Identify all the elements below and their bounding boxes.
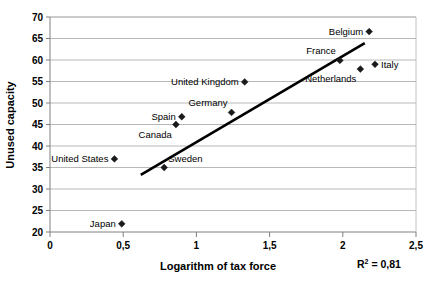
- x-tick-label: 2: [340, 240, 346, 251]
- y-tick-label: 45: [32, 119, 44, 130]
- data-point-label: Japan: [90, 218, 116, 229]
- y-tick-label: 55: [32, 76, 44, 87]
- data-point-marker: [161, 164, 168, 171]
- y-tick-label: 35: [32, 162, 44, 173]
- chart-canvas: 2025303540455055606570 00,511,522,5 Unit…: [0, 0, 441, 286]
- data-point-label: Canada: [139, 129, 173, 140]
- x-tick-label: 2,5: [409, 240, 423, 251]
- data-point-marker: [111, 156, 118, 163]
- data-point-label: Germany: [188, 97, 227, 108]
- data-point-label: United Kingdom: [171, 76, 239, 87]
- x-tick-label: 0,5: [116, 240, 130, 251]
- data-point-label: France: [306, 45, 336, 56]
- x-tick-label: 1: [194, 240, 200, 251]
- y-tick-label: 25: [32, 205, 44, 216]
- data-point-label: Spain: [151, 111, 175, 122]
- scatter-chart: 2025303540455055606570 00,511,522,5 Unit…: [0, 0, 441, 286]
- data-point-label: Italy: [381, 59, 399, 70]
- x-axis-ticks: 00,511,522,5: [47, 232, 423, 251]
- data-point-marker: [357, 66, 364, 73]
- data-point-label: Sweden: [168, 153, 202, 164]
- y-tick-label: 40: [32, 141, 44, 152]
- y-axis-title: Unused capacity: [4, 80, 16, 168]
- data-point-label: United States: [51, 153, 108, 164]
- x-axis-title: Logarithm of tax force: [160, 260, 276, 272]
- y-tick-label: 65: [32, 33, 44, 44]
- data-point-marker: [118, 220, 125, 227]
- y-tick-label: 70: [32, 12, 44, 23]
- y-tick-label: 50: [32, 98, 44, 109]
- r-squared-annotation: R2 = 0,81: [357, 258, 401, 270]
- data-point-label: Belgium: [329, 26, 363, 37]
- data-point-marker: [366, 28, 373, 35]
- x-tick-label: 0: [47, 240, 53, 251]
- y-tick-label: 20: [32, 227, 44, 238]
- data-point-marker: [241, 79, 248, 86]
- data-point-marker: [372, 61, 379, 68]
- data-point-marker: [228, 109, 235, 116]
- point-labels: United StatesJapanSwedenCanadaSpainGerma…: [51, 26, 398, 229]
- y-tick-label: 30: [32, 184, 44, 195]
- y-axis-ticks: 2025303540455055606570: [32, 12, 50, 238]
- x-tick-label: 1,5: [263, 240, 277, 251]
- data-point-marker: [178, 113, 185, 120]
- data-point-label: Netherlands: [305, 73, 356, 84]
- y-tick-label: 60: [32, 55, 44, 66]
